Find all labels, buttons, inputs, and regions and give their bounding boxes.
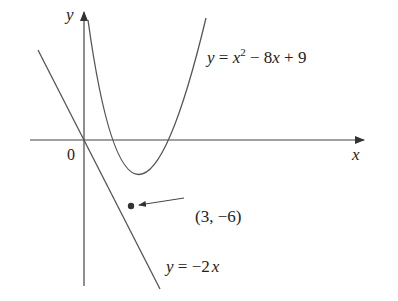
point-pointer-arrow (139, 198, 184, 205)
diagram-canvas: y x 0 y = x2 − 8x + 9 (3, −6) y = −2x (0, 0, 398, 301)
origin-label: 0 (67, 146, 75, 163)
point-label: (3, −6) (195, 207, 241, 226)
tangent-point (128, 203, 134, 209)
y-axis-label: y (64, 5, 74, 24)
parabola (88, 18, 206, 175)
parabola-equation-label: y = x2 − 8x + 9 (205, 46, 306, 67)
x-axis-label: x (351, 145, 360, 164)
tangent-equation-label: y = −2x (164, 257, 220, 276)
